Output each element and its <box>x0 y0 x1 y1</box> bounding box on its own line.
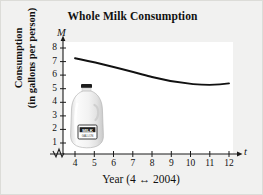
x-axis-label: Year (4 ↔ 2004) <box>41 173 241 185</box>
x-tick-label-10: 10 <box>184 158 198 168</box>
x-tick-label-8: 8 <box>145 158 159 168</box>
chart-figure: Whole Milk Consumption Consumption (in g… <box>0 0 263 195</box>
x-axis-break-icon <box>53 149 64 157</box>
y-tick-label-2: 2 <box>45 123 57 133</box>
y-tick-label-7: 7 <box>45 56 57 66</box>
x-tick-label-4: 4 <box>68 158 82 168</box>
y-tick-label-1: 1 <box>45 137 57 147</box>
x-tick-label-9: 9 <box>164 158 178 168</box>
y-tick-label-3: 3 <box>45 110 57 120</box>
x-tick-label-11: 11 <box>203 158 217 168</box>
x-tick-label-12: 12 <box>222 158 236 168</box>
y-tick-label-8: 8 <box>45 42 57 52</box>
x-tick-label-5: 5 <box>87 158 101 168</box>
y-tick-label-5: 5 <box>45 83 57 93</box>
y-tick-label-6: 6 <box>45 69 57 79</box>
data-curve <box>75 58 229 85</box>
x-axis-arrow <box>237 152 243 157</box>
x-tick-label-7: 7 <box>126 158 140 168</box>
y-axis-arrow <box>61 36 66 42</box>
x-tick-label-6: 6 <box>107 158 121 168</box>
y-tick-label-4: 4 <box>45 96 57 106</box>
